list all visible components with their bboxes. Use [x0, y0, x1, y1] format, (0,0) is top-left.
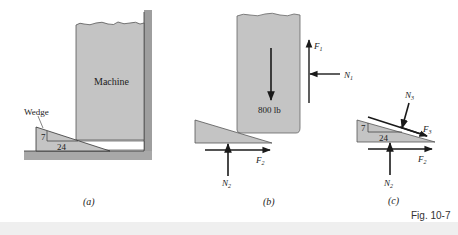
wedge-run-label: 24 — [57, 142, 67, 152]
machine-label: Machine — [94, 76, 130, 87]
n3-arrow — [402, 103, 409, 128]
wedge-machine-figure: 7 24 Wedge Machine (a) 800 lb F1 N1 F2 N… — [0, 0, 458, 235]
n2-label-c: N2 — [383, 178, 393, 189]
panel-a: 7 24 Wedge Machine (a) — [24, 10, 152, 208]
panel-c-label: (c) — [388, 195, 400, 207]
panel-c: 7 24 F3 N3 F2 N2 (c) — [357, 90, 435, 207]
bottom-band — [0, 222, 458, 235]
panel-b-label: (b) — [263, 196, 275, 208]
f2-label: F2 — [255, 155, 265, 166]
f2-label-c: F2 — [417, 154, 427, 165]
n3-label: N3 — [404, 90, 414, 101]
wall — [144, 10, 152, 160]
wedge-label: Wedge — [24, 107, 49, 117]
f3-label: F3 — [422, 124, 432, 135]
f1-label: F1 — [313, 41, 323, 52]
n2-label: N2 — [221, 178, 231, 189]
figure-caption: Fig. 10-7 — [411, 210, 451, 221]
floor — [24, 151, 152, 160]
n1-label: N1 — [343, 70, 353, 81]
panel-a-label: (a) — [83, 196, 95, 208]
wedge-c-run-label: 24 — [379, 133, 389, 143]
machine-free-body — [237, 13, 300, 133]
weight-label: 800 lb — [258, 105, 281, 115]
panel-b: 800 lb F1 N1 F2 N2 (b) — [195, 13, 353, 208]
wedge-rise-label: 7 — [41, 132, 46, 142]
wedge-c-rise-label: 7 — [361, 123, 366, 133]
